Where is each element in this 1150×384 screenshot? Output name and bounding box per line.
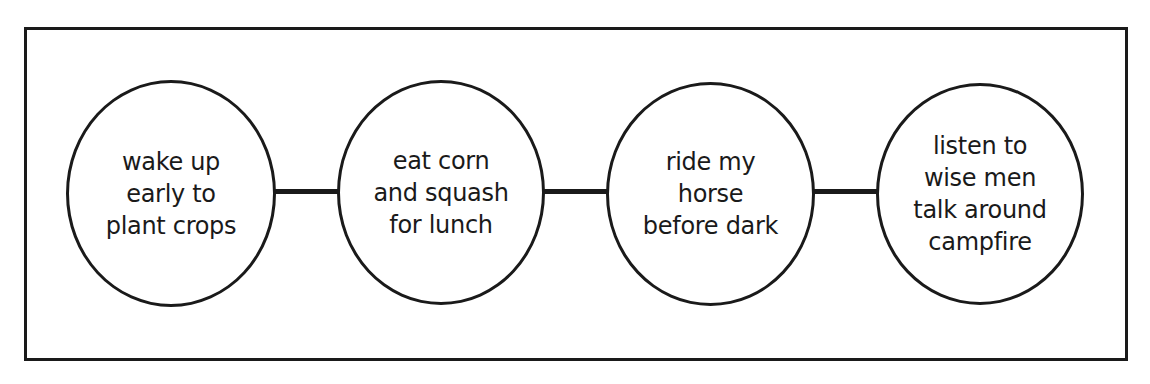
node-campfire: listen to wise men talk around campfire bbox=[876, 83, 1084, 305]
node-wake-up: wake up early to plant crops bbox=[66, 80, 276, 307]
node-label: ride my horse before dark bbox=[643, 146, 778, 242]
node-label: listen to wise men talk around campfire bbox=[913, 130, 1046, 258]
node-ride-horse: ride my horse before dark bbox=[606, 82, 815, 306]
connector-2-3 bbox=[542, 189, 608, 194]
node-eat-lunch: eat corn and squash for lunch bbox=[337, 80, 545, 305]
node-label: wake up early to plant crops bbox=[106, 146, 237, 242]
node-label: eat corn and squash for lunch bbox=[373, 145, 508, 241]
connector-3-4 bbox=[812, 189, 879, 194]
connector-1-2 bbox=[273, 189, 340, 194]
